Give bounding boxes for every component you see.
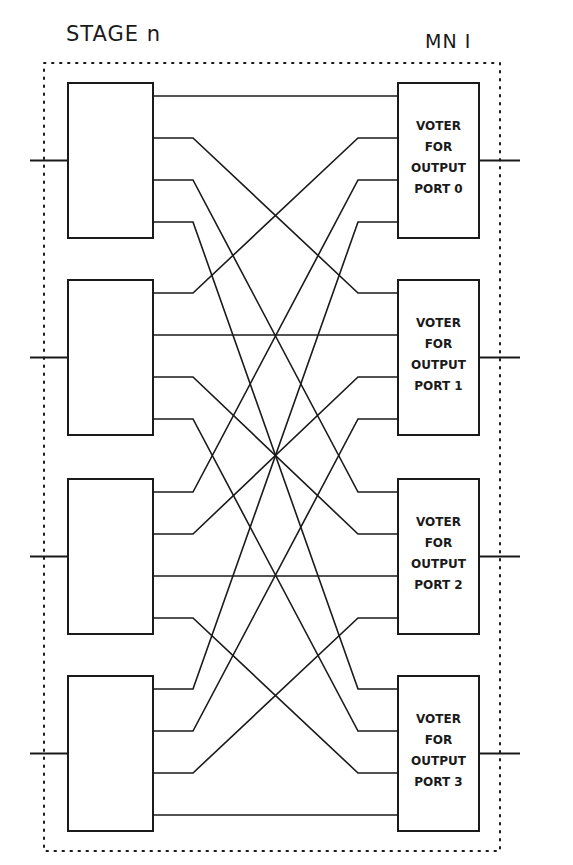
connection-3-2 (153, 618, 398, 773)
voter-label-line2: FOR (398, 137, 479, 158)
network-diagram (0, 0, 573, 865)
voter-label-line1: VOTER (398, 709, 479, 730)
voter-label-line4: PORT 3 (398, 772, 479, 793)
voter-label-line3: OUTPUT (398, 554, 479, 575)
switch-box-0 (68, 83, 153, 238)
voter-label-3: VOTERFOROUTPUTPORT 3 (398, 709, 479, 793)
voter-label-line2: FOR (398, 334, 479, 355)
voter-label-line1: VOTER (398, 116, 479, 137)
voter-label-line1: VOTER (398, 512, 479, 533)
voter-label-line1: VOTER (398, 313, 479, 334)
voter-label-line3: OUTPUT (398, 751, 479, 772)
voter-label-0: VOTERFOROUTPUTPORT 0 (398, 116, 479, 200)
voter-label-line2: FOR (398, 533, 479, 554)
switch-box-1 (68, 280, 153, 435)
voter-label-line2: FOR (398, 730, 479, 751)
connection-1-0 (153, 138, 398, 293)
switch-box-3 (68, 676, 153, 831)
voter-label-line4: PORT 2 (398, 575, 479, 596)
voter-label-line4: PORT 0 (398, 179, 479, 200)
voter-label-line3: OUTPUT (398, 355, 479, 376)
switch-box-2 (68, 479, 153, 634)
connection-2-0 (153, 180, 398, 492)
voter-label-1: VOTERFOROUTPUTPORT 1 (398, 313, 479, 397)
connection-3-1 (153, 419, 398, 731)
connection-3-0 (153, 222, 398, 689)
voter-label-2: VOTERFOROUTPUTPORT 2 (398, 512, 479, 596)
voter-label-line4: PORT 1 (398, 376, 479, 397)
voter-label-line3: OUTPUT (398, 158, 479, 179)
